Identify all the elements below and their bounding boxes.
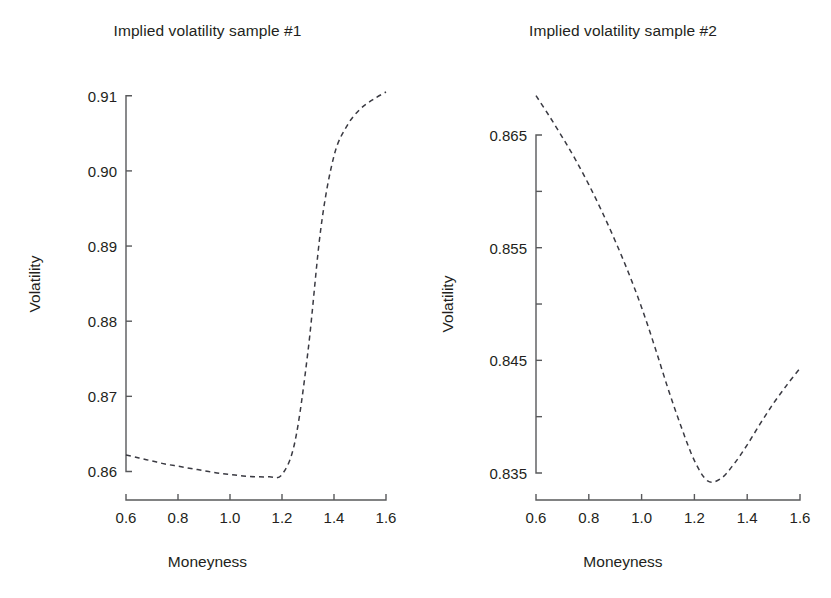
x-axis-label-right: Moneyness <box>415 553 831 571</box>
y-axis-label-right: Volatility <box>439 276 457 333</box>
y-tick-label: 0.90 <box>88 162 117 179</box>
chart-panel-right: Implied volatility sample #2 Volatility … <box>415 0 831 598</box>
x-tick-label: 1.2 <box>272 509 293 526</box>
y-tick-label: 0.88 <box>88 313 117 330</box>
y-tick-label: 0.86 <box>88 463 117 480</box>
chart-panel-left: Implied volatility sample #1 Volatility … <box>0 0 415 598</box>
volatility-curve <box>126 92 386 478</box>
x-tick-label: 1.4 <box>737 509 758 526</box>
x-tick-label: 1.0 <box>631 509 652 526</box>
plot-area-left <box>0 0 415 598</box>
figure-canvas: Implied volatility sample #1 Volatility … <box>0 0 831 598</box>
x-tick-label: 0.8 <box>168 509 189 526</box>
y-tick-label: 0.87 <box>88 388 117 405</box>
y-tick-label: 0.845 <box>489 352 527 369</box>
y-axis-label-left: Volatility <box>26 255 44 312</box>
x-tick-label: 1.0 <box>220 509 241 526</box>
x-tick-label: 0.6 <box>116 509 137 526</box>
y-tick-label: 0.91 <box>88 87 117 104</box>
y-tick-label: 0.865 <box>489 127 527 144</box>
volatility-curve <box>536 96 800 483</box>
plot-area-right <box>415 0 831 598</box>
x-tick-label: 1.2 <box>684 509 705 526</box>
x-tick-label: 0.8 <box>578 509 599 526</box>
x-tick-label: 1.4 <box>324 509 345 526</box>
x-tick-label: 1.6 <box>376 509 397 526</box>
y-tick-label: 0.89 <box>88 238 117 255</box>
x-tick-label: 0.6 <box>526 509 547 526</box>
y-tick-label: 0.855 <box>489 239 527 256</box>
x-axis-label-left: Moneyness <box>0 553 415 571</box>
x-tick-label: 1.6 <box>790 509 811 526</box>
y-tick-label: 0.835 <box>489 464 527 481</box>
